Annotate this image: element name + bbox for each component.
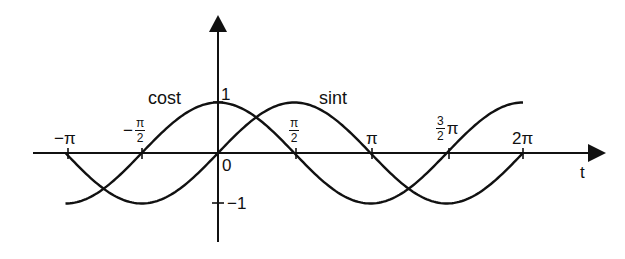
origin-label: 0 [222, 157, 231, 174]
y-tick-label-minus-1: −1 [227, 195, 246, 212]
cos-curve-label: cost [148, 89, 181, 107]
x-tick-label-three-half-pi: 3 2 π [436, 115, 458, 142]
x-tick-label-pi: π [366, 130, 378, 147]
y-tick-label-1: 1 [221, 86, 230, 103]
minus-sign: − [123, 121, 133, 141]
x-tick-label-half-pi: π 2 [289, 117, 299, 144]
y-axis-arrow-icon [209, 15, 227, 32]
x-axis-label: t [580, 164, 585, 181]
sin-curve-label: sint [319, 89, 347, 107]
x-axis-arrow-icon [588, 144, 606, 162]
x-tick-label-neg-half-pi: − π 2 [123, 117, 145, 144]
fraction: 3 2 [436, 115, 445, 142]
x-tick-label-neg-pi: −π [54, 130, 76, 147]
x-tick-label-two-pi: 2π [512, 130, 533, 147]
fraction: π 2 [135, 117, 145, 144]
